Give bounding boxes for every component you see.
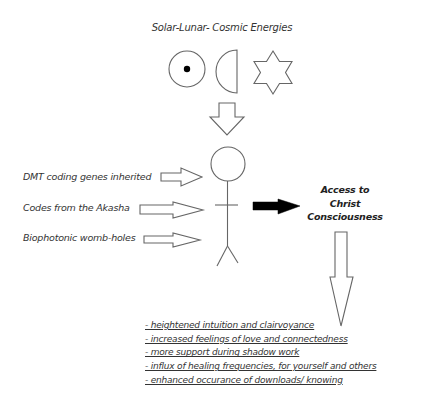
benefit-item: - heightened intuition and clairvoyance — [145, 319, 376, 333]
benefit-item: - more support during shadow work — [145, 346, 376, 360]
input-label-akasha: Codes from the Akasha — [23, 202, 130, 213]
right-arrow-icon — [144, 233, 200, 247]
result-line-3: Consciousness — [300, 210, 390, 224]
stick-figure-icon — [211, 147, 245, 266]
benefit-item: - increased feelings of love and connect… — [145, 333, 376, 347]
sun-icon — [169, 51, 205, 87]
bold-right-arrow-icon — [253, 199, 300, 214]
result-line-2: Christ — [300, 197, 390, 211]
diagram-canvas: Solar-Lunar- Cosmic Energies — [0, 0, 428, 410]
benefit-item: - enhanced occurance of downloads/ knowi… — [145, 374, 376, 388]
six-point-star-icon — [254, 51, 292, 94]
input-label-dmt: DMT coding genes inherited — [23, 171, 151, 182]
right-arrow-icon — [140, 202, 203, 218]
large-down-arrow-icon — [330, 232, 353, 326]
down-arrow-icon — [210, 103, 244, 135]
input-label-biophotonic: Biophotonic womb-holes — [23, 232, 135, 243]
right-arrow-icon — [161, 168, 202, 186]
benefits-list: - heightened intuition and clairvoyance … — [145, 319, 376, 387]
result-label: Access to Christ Consciousness — [300, 183, 390, 224]
benefit-item: - influx of healing frequencies, for you… — [145, 360, 376, 374]
half-moon-icon — [216, 50, 237, 93]
result-line-1: Access to — [300, 183, 390, 197]
